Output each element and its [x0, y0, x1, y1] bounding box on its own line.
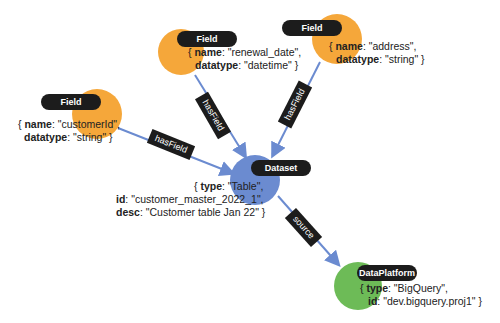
dataset-type-pill: Dataset [251, 160, 311, 176]
field-customerid-props: { name: "customerId", datatype: "string"… [18, 118, 120, 144]
field-customerid-type-pill: Field [41, 94, 101, 110]
field-renewal-props: { name: "renewal_date", datatype: "datet… [188, 46, 301, 72]
dataplatform-type-pill: DataPlatform [357, 265, 417, 281]
field-address-props: { name: "address", datatype: "string" } [329, 40, 425, 66]
dataplatform-props: { type: "BigQuery", id: "dev.bigquery.pr… [360, 282, 482, 308]
field-address-type-pill: Field [282, 20, 342, 36]
dataset-props: { type: "Table", id: "customer_master_20… [116, 180, 265, 219]
field-renewal-type-pill: Field [177, 31, 237, 47]
